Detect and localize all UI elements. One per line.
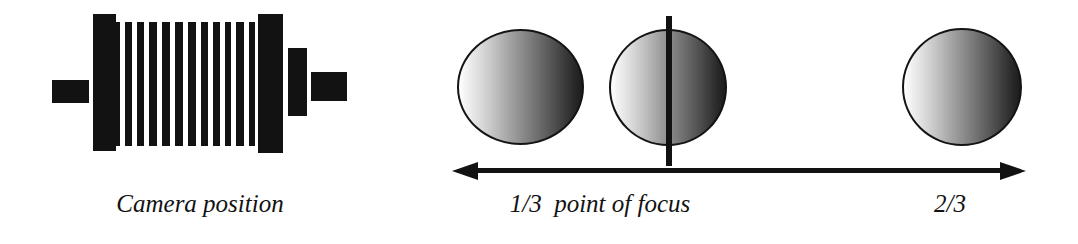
camera-position-label: Camera position [60, 191, 340, 216]
two-thirds-label: 2/3 [870, 191, 1030, 216]
focus-scene-figure: 1/3 point of focus 2/3 [400, 0, 1078, 244]
camera-figure: Camera position [0, 0, 400, 244]
diagram-canvas: Camera position 1/3 point of focus 2/3 [0, 0, 1078, 244]
sphere-near [457, 29, 584, 145]
focus-point-label: 1/3 point of focus [440, 191, 760, 216]
rear-standard-shape [258, 14, 283, 153]
rear-tab-shape [311, 72, 347, 101]
lens-board-tab-shape [52, 80, 89, 103]
depth-axis-arrow [452, 162, 1026, 180]
arrow-shaft [470, 168, 1010, 173]
sphere-far [902, 28, 1022, 146]
film-back-shape [288, 48, 307, 116]
bellows-shape [113, 22, 255, 146]
focus-plane-line [666, 16, 672, 166]
arrow-head-right-icon [1000, 162, 1026, 180]
